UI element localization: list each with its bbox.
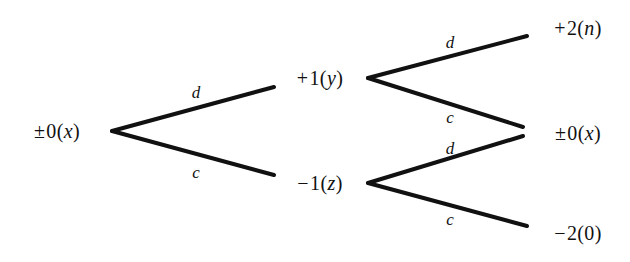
edge-label-upper-mid-to-leaf-top: d — [446, 34, 455, 51]
edge-label-root-to-upper-mid: d — [192, 84, 201, 101]
node-upper-mid-sign: + — [297, 67, 310, 89]
node-leaf-middle: ±0(x) — [555, 123, 601, 143]
node-lower-mid: −1(z) — [297, 173, 342, 193]
edge-label-lower-mid-to-leaf-bottom: c — [446, 211, 454, 228]
node-upper-mid-number: 1 — [309, 67, 319, 89]
node-root-open-paren: ( — [57, 120, 64, 142]
node-leaf-middle-open-paren: ( — [578, 122, 585, 144]
edge-label-upper-mid-to-leaf-middle: c — [446, 109, 454, 126]
node-leaf-bottom-close-paren: ) — [595, 222, 602, 244]
node-root-close-paren: ) — [73, 120, 80, 142]
node-leaf-middle-number: 0 — [567, 122, 577, 144]
node-leaf-top: +2(n) — [554, 18, 602, 38]
edge-label-lower-mid-to-leaf-middle: d — [446, 140, 455, 157]
node-leaf-top-sign: + — [554, 17, 567, 39]
node-upper-mid-close-paren: ) — [336, 67, 343, 89]
node-root-variable: x — [64, 120, 73, 142]
node-root-number: 0 — [46, 120, 56, 142]
node-leaf-bottom-variable: 0 — [584, 222, 594, 244]
node-leaf-middle-sign: ± — [555, 122, 567, 144]
node-root: ±0(x) — [34, 121, 80, 141]
node-leaf-top-close-paren: ) — [595, 17, 602, 39]
node-leaf-top-variable: n — [584, 17, 594, 39]
node-upper-mid: +1(y) — [297, 68, 344, 88]
node-leaf-middle-variable: x — [585, 122, 594, 144]
tree-edges-layer — [0, 0, 630, 262]
node-lower-mid-close-paren: ) — [336, 172, 343, 194]
node-leaf-bottom-number: 2 — [567, 222, 577, 244]
node-leaf-bottom-sign: − — [554, 222, 567, 244]
node-lower-mid-sign: − — [297, 172, 310, 194]
edge-label-root-to-lower-mid: c — [192, 164, 200, 181]
node-root-sign: ± — [34, 120, 46, 142]
node-lower-mid-number: 1 — [310, 172, 320, 194]
node-leaf-bottom: −2(0) — [554, 223, 602, 243]
node-leaf-top-number: 2 — [567, 17, 577, 39]
tree-diagram: ±0(x) +1(y) −1(z) +2(n) ±0(x) −2(0) d c … — [0, 0, 630, 262]
node-leaf-middle-close-paren: ) — [594, 122, 601, 144]
